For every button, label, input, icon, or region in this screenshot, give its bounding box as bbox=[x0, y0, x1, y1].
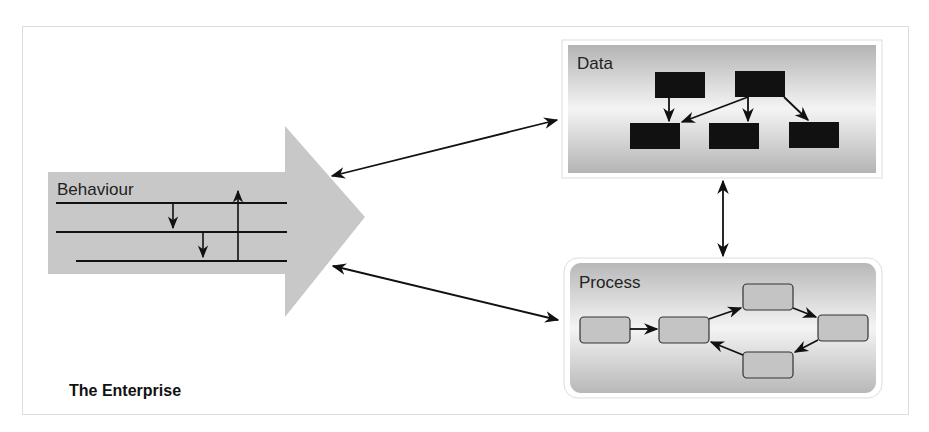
diagram-title: The Enterprise bbox=[69, 382, 181, 400]
behaviour-label: Behaviour bbox=[57, 180, 134, 200]
data-label: Data bbox=[577, 54, 613, 74]
diagram-canvas bbox=[0, 0, 929, 432]
process-label: Process bbox=[579, 273, 640, 293]
edge-behaviour-data bbox=[332, 120, 557, 176]
behaviour-node bbox=[48, 126, 365, 317]
edge-behaviour-process bbox=[333, 266, 558, 320]
